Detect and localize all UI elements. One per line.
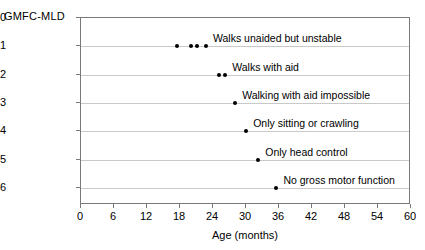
x-tick-label-36: 36 (263, 211, 293, 222)
gridline-y-6 (81, 188, 409, 189)
x-tick-mark-42 (311, 204, 312, 208)
y-tick-label-6: 6 (0, 182, 6, 193)
point-annotation-level-5: Only head control (265, 147, 347, 158)
data-point (274, 186, 278, 190)
point-annotation-level-4: Only sitting or crawling (253, 118, 359, 129)
x-tick-mark-18 (179, 204, 180, 208)
data-point (244, 129, 248, 133)
data-point (195, 44, 199, 48)
y-tick-mark-3 (76, 102, 80, 103)
x-tick-label-24: 24 (197, 211, 227, 222)
x-tick-label-12: 12 (131, 211, 161, 222)
y-tick-label-5: 5 (0, 154, 6, 165)
data-point (175, 44, 179, 48)
x-axis-title: Age (months) (80, 229, 410, 241)
y-tick-label-4: 4 (0, 125, 6, 136)
point-annotation-level-1: Walks unaided but unstable (213, 33, 342, 44)
y-tick-mark-0 (76, 17, 80, 18)
y-tick-label-3: 3 (0, 97, 6, 108)
x-tick-mark-24 (212, 204, 213, 208)
x-tick-mark-0 (80, 204, 81, 208)
x-tick-label-30: 30 (230, 211, 260, 222)
x-tick-label-42: 42 (296, 211, 326, 222)
x-tick-mark-48 (344, 204, 345, 208)
y-axis-title: GMFC-MLD (4, 10, 65, 22)
data-point (217, 73, 221, 77)
x-tick-label-0: 0 (65, 211, 95, 222)
data-point (223, 73, 227, 77)
y-tick-label-1: 1 (0, 40, 6, 51)
gridline-y-2 (81, 75, 409, 76)
x-tick-label-18: 18 (164, 211, 194, 222)
gridline-y-5 (81, 160, 409, 161)
y-tick-mark-2 (76, 74, 80, 75)
y-tick-mark-1 (76, 45, 80, 46)
data-point (233, 101, 237, 105)
x-tick-label-48: 48 (329, 211, 359, 222)
point-annotation-level-6: No gross motor function (283, 175, 394, 186)
point-annotation-level-2: Walks with aid (232, 62, 299, 73)
x-tick-mark-6 (113, 204, 114, 208)
x-tick-mark-60 (410, 204, 411, 208)
plot-area: Walks unaided but unstableWalks with aid… (80, 17, 410, 204)
gridline-y-3 (81, 103, 409, 104)
y-tick-label-0: 0 (0, 12, 6, 23)
x-tick-label-54: 54 (362, 211, 392, 222)
data-point (189, 44, 193, 48)
point-annotation-level-3: Walking with aid impossible (242, 90, 370, 101)
y-tick-mark-5 (76, 159, 80, 160)
gridline-y-1 (81, 46, 409, 47)
data-point (256, 158, 260, 162)
x-tick-label-60: 60 (395, 211, 425, 222)
y-tick-mark-4 (76, 130, 80, 131)
x-tick-mark-36 (278, 204, 279, 208)
scatter-chart: GMFC-MLD Walks unaided but unstableWalks… (0, 0, 425, 250)
data-point (204, 44, 208, 48)
x-tick-mark-12 (146, 204, 147, 208)
x-tick-label-6: 6 (98, 211, 128, 222)
x-tick-mark-54 (377, 204, 378, 208)
y-tick-mark-6 (76, 187, 80, 188)
x-tick-mark-30 (245, 204, 246, 208)
y-tick-label-2: 2 (0, 69, 6, 80)
